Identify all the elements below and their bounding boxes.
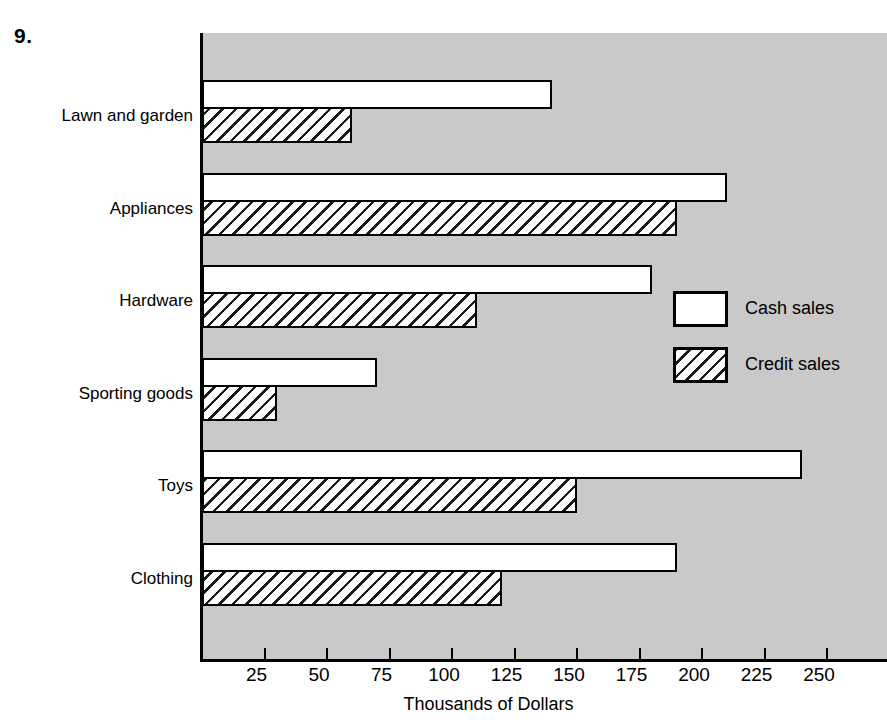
bar-cash-sales xyxy=(202,543,677,572)
bar-cash-sales xyxy=(202,265,652,294)
category-label: Clothing xyxy=(131,569,193,589)
bar-credit-sales xyxy=(202,385,277,421)
bar-credit-sales xyxy=(202,570,502,606)
bar-credit-sales xyxy=(202,200,677,236)
x-tick-label: 25 xyxy=(246,664,267,686)
x-tick-label: 250 xyxy=(803,664,835,686)
x-tick-mark xyxy=(576,648,578,660)
x-tick-mark xyxy=(389,648,391,660)
chart-legend: Cash salesCredit sales xyxy=(673,291,883,403)
x-tick-label: 125 xyxy=(491,664,523,686)
x-tick-mark xyxy=(451,648,453,660)
bar-cash-sales xyxy=(202,80,552,109)
category-label: Lawn and garden xyxy=(62,106,193,126)
x-tick-label: 175 xyxy=(616,664,648,686)
x-tick-label: 100 xyxy=(428,664,460,686)
x-tick-mark xyxy=(701,648,703,660)
bar-chart-figure: 9. 255075100125150175200225250 Lawn and … xyxy=(0,0,887,720)
x-axis-line xyxy=(200,659,887,662)
x-tick-mark xyxy=(639,648,641,660)
x-tick-label: 150 xyxy=(553,664,585,686)
bar-credit-sales xyxy=(202,107,352,143)
legend-item: Cash sales xyxy=(673,291,883,347)
category-label: Hardware xyxy=(119,291,193,311)
bar-cash-sales xyxy=(202,450,802,479)
exercise-number: 9. xyxy=(14,24,33,48)
x-tick-mark xyxy=(264,648,266,660)
x-tick-label: 200 xyxy=(678,664,710,686)
bar-credit-sales xyxy=(202,292,477,328)
legend-item: Credit sales xyxy=(673,347,883,403)
category-label: Toys xyxy=(158,476,193,496)
x-tick-mark xyxy=(764,648,766,660)
legend-swatch-solid xyxy=(673,291,728,327)
category-label: Appliances xyxy=(110,199,193,219)
x-tick-label: 225 xyxy=(741,664,773,686)
bar-cash-sales xyxy=(202,358,377,387)
bar-credit-sales xyxy=(202,477,577,513)
bar-cash-sales xyxy=(202,173,727,202)
x-tick-mark xyxy=(514,648,516,660)
x-tick-mark xyxy=(826,648,828,660)
x-tick-mark xyxy=(326,648,328,660)
x-axis-title-text: Thousands of Dollars xyxy=(403,694,573,715)
category-label: Sporting goods xyxy=(79,384,193,404)
legend-label: Credit sales xyxy=(745,354,840,375)
legend-label: Cash sales xyxy=(745,298,834,319)
x-tick-label: 75 xyxy=(371,664,392,686)
x-tick-label: 50 xyxy=(308,664,329,686)
x-axis-title: Thousands of Dollars xyxy=(0,694,887,715)
legend-swatch-hatched xyxy=(673,347,728,383)
